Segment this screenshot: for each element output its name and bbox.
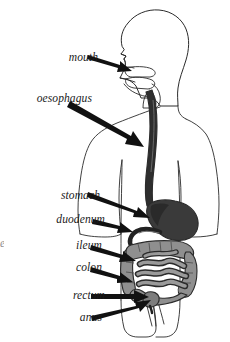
label-ileum: ileum bbox=[76, 240, 102, 252]
label-duodenum: duodenum bbox=[56, 214, 105, 226]
label-rectum: rectum bbox=[73, 290, 105, 302]
label-anus: anus bbox=[80, 312, 102, 324]
clipped-edge-text: e bbox=[0, 238, 4, 247]
label-stomach: stomach bbox=[61, 190, 100, 202]
label-colon: colon bbox=[76, 262, 102, 274]
label-oesophagus: oesophagus bbox=[37, 93, 92, 105]
digestive-system-diagram: .bodyline{fill:#ffffff;stroke:#2b2b2b;st… bbox=[0, 0, 230, 342]
anatomy-illustration: .bodyline{fill:#ffffff;stroke:#2b2b2b;st… bbox=[0, 0, 230, 342]
label-mouth: mouth bbox=[69, 52, 98, 64]
diagram-background bbox=[0, 0, 230, 342]
